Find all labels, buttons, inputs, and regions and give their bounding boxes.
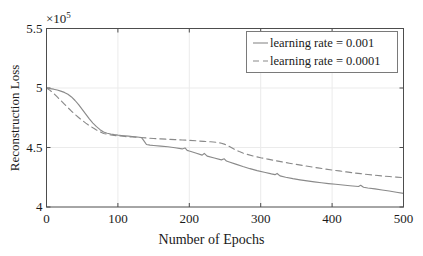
chart-figure: ×105 44.555.5 0100200300400500 Reconstru… (0, 0, 423, 256)
data-series-group (47, 88, 404, 193)
x-axis-label: Number of Epochs (0, 232, 423, 248)
series-line-1 (47, 88, 404, 178)
x-tick-label-1: 100 (108, 211, 128, 227)
y-axis-label-wrapper: Reconstruction Loss (7, 28, 27, 208)
x-tick-label-2: 200 (180, 211, 200, 227)
x-tick-label-4: 400 (322, 211, 342, 227)
x-tick-label-3: 300 (251, 211, 271, 227)
x-tick-label-5: 500 (394, 211, 414, 227)
y-axis-label: Reconstruction Loss (7, 28, 23, 208)
legend-label-series-1: learning rate = 0.0001 (270, 54, 381, 69)
x-tick-label-0: 0 (43, 211, 50, 227)
legend-label-series-0: learning rate = 0.001 (270, 36, 374, 51)
series-line-0 (47, 88, 404, 193)
